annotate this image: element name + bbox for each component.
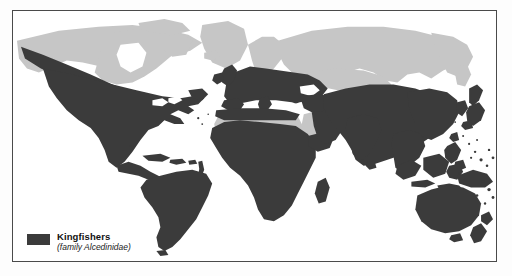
legend-subtitle: (family Alcedinidae) <box>57 243 131 253</box>
map-figure: Kingfishers (family Alcedinidae) <box>0 0 512 276</box>
map-frame: Kingfishers (family Alcedinidae) <box>12 10 497 262</box>
legend-swatch-range <box>27 234 50 245</box>
world-map-canvas <box>13 11 496 261</box>
map-legend: Kingfishers (family Alcedinidae) <box>27 232 131 253</box>
legend-text-group: Kingfishers (family Alcedinidae) <box>57 232 131 253</box>
legend-title: Kingfishers <box>57 232 131 243</box>
